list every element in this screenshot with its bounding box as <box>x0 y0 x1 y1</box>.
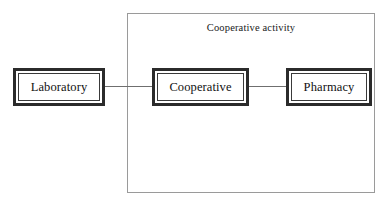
node-cooperative[interactable]: Cooperative <box>152 68 249 106</box>
node-laboratory[interactable]: Laboratory <box>13 68 105 106</box>
node-pharmacy-inner-frame: Pharmacy <box>291 73 367 101</box>
node-cooperative-inner-frame: Cooperative <box>157 73 244 101</box>
cooperative-activity-group-label: Cooperative activity <box>127 22 375 33</box>
node-laboratory-label: Laboratory <box>31 81 88 94</box>
node-cooperative-label: Cooperative <box>169 81 231 94</box>
connector-cooperative-to-pharmacy <box>248 86 288 87</box>
node-pharmacy-label: Pharmacy <box>304 81 355 94</box>
connector-laboratory-to-cooperative <box>104 86 154 87</box>
node-pharmacy[interactable]: Pharmacy <box>286 68 372 106</box>
node-laboratory-inner-frame: Laboratory <box>18 73 100 101</box>
diagram-canvas: Cooperative activity Laboratory Cooperat… <box>0 0 388 205</box>
